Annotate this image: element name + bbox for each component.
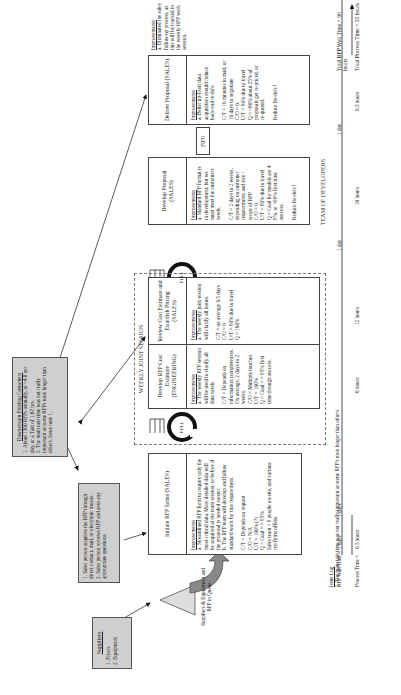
process-details: a. The weekly RFP session will be used t… [196,348,272,404]
process-details: a. Streamlined RFP form to require only … [196,458,278,550]
wait-time-value: 1 day [336,240,342,251]
queue-label: Suppliers & Equipment and RFP in Queue [200,567,213,627]
wait-time-value: 1 day [336,124,342,135]
customer-note-body: 1. About 1300 RFPs annually, or ~4.8 per… [22,361,53,453]
pull-label: PULL [179,422,185,433]
process-details: a. Better up-front data acquisition shou… [196,60,278,120]
process-time-value: 0.5 hours [354,530,360,549]
process-box-develop-cost-estimate: Develop RFP Cost Estimate (ENGINEERING) … [148,343,320,409]
process-box-review-pricing: Review Cost Estimate and Establish Prici… [148,277,320,345]
process-box-develop-proposal: Develop Proposal (SALES) Improvements a.… [148,157,310,225]
final-note-text: a. Eliminated the sales follow-up proces… [156,0,187,50]
weekly-session-label: WEEKLY JOINT SESSION [138,274,144,444]
value-stream-map: Suppliers 1. Fryers 2. Equipment 1. Sale… [0,0,401,695]
process-time-label: Process Time = [354,555,360,587]
suppliers-title: Suppliers [96,621,102,665]
sales-contact-note: 1. Sales person acquires the RFP through… [78,483,120,583]
process-time-value: 12 hours [354,307,360,325]
process-details: a. Standard RFP format is in development… [196,162,297,220]
suppliers-box: Suppliers 1. Fryers 2. Equipment [92,617,132,669]
timeline-ladder [342,0,352,555]
process-box-deliver-proposal: Deliver Proposal (SALES) Improvements a.… [148,55,310,125]
wait-time-value: 1 days [336,504,342,517]
total-process-time: Total Process Time = 35 hours [354,3,360,71]
suppliers-item: 2. Equipment [112,621,118,665]
process-title: Develop RFP Cost Estimate (ENGINEERING) [149,344,187,408]
process-title: Initiate RFP forms (SALES) [149,454,187,554]
process-time-value: 6 hours [354,378,360,393]
process-time-value: 0.5 hours [354,92,360,111]
process-title: Develop Proposal (SALES) [149,158,187,224]
customer-note: Downstream Existing Customers 1. About 1… [12,357,68,457]
process-title: Deliver Proposal (SALES) [149,56,187,124]
process-time-value: 16 hours [354,187,360,205]
process-details: a. The weekly joint session will clarify… [196,282,240,340]
wait-time-label: RFP Wait Time = [336,551,342,587]
pull-label: PULL [179,272,185,283]
total-wait-time: Total RFP Wait Time = 90 hours [336,0,349,71]
team-label: TEAM OF DEVELOPERS [320,159,326,225]
wait-time-value: 1 days [336,536,342,549]
process-title: Review Cost Estimate and Establish Prici… [149,278,187,344]
final-improvement-note: Improvements a. Eliminated the sales fol… [150,0,188,50]
fifo-lane: FIFO [196,127,210,155]
process-box-initiate-rfp: Initiate RFP forms (SALES) Improvements … [148,453,302,555]
